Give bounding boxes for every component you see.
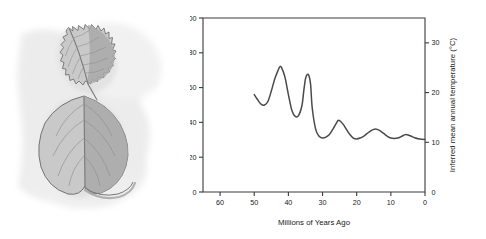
svg-text:30: 30 xyxy=(432,38,440,47)
svg-text:0: 0 xyxy=(432,188,436,197)
svg-text:10: 10 xyxy=(387,198,395,207)
svg-text:60: 60 xyxy=(190,83,197,92)
paleotemperature-chart: 6050403020100 020406080100 0102030 Milli… xyxy=(190,0,486,239)
svg-text:100: 100 xyxy=(190,14,197,23)
y-axis-right-ticks: 0102030 xyxy=(425,38,440,196)
svg-text:30: 30 xyxy=(319,198,327,207)
leaf-margin-illustration xyxy=(0,0,190,239)
svg-text:10: 10 xyxy=(432,138,440,147)
svg-text:20: 20 xyxy=(190,153,197,162)
svg-text:60: 60 xyxy=(216,198,224,207)
x-axis-title: Millions of Years Ago xyxy=(278,218,351,227)
svg-text:50: 50 xyxy=(250,198,258,207)
svg-text:20: 20 xyxy=(432,88,440,97)
leaf-margin-paleotemperature-figure: 6050403020100 020406080100 0102030 Milli… xyxy=(0,0,486,239)
x-axis-ticks: 6050403020100 xyxy=(216,192,427,207)
svg-text:0: 0 xyxy=(193,188,197,197)
svg-text:80: 80 xyxy=(190,48,197,57)
svg-text:40: 40 xyxy=(284,198,292,207)
svg-text:20: 20 xyxy=(353,198,361,207)
plot-frame xyxy=(203,18,425,192)
y-axis-left-ticks: 020406080100 xyxy=(190,14,203,197)
svg-text:0: 0 xyxy=(423,198,427,207)
entire-margin-percent-curve xyxy=(254,66,425,139)
svg-text:40: 40 xyxy=(190,118,197,127)
y-axis-right-title: Inferred mean annual temperature (°C) xyxy=(448,37,457,172)
